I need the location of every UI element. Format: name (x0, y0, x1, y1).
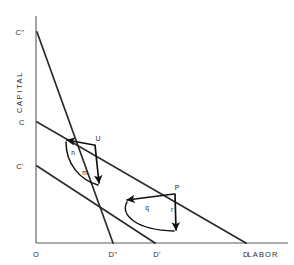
y-tick-c2: C" (16, 28, 25, 37)
vector-label-n: n (71, 149, 75, 156)
y-axis-title: CAPITAL (15, 71, 24, 113)
vector-r (175, 194, 176, 230)
line-c2-d2 (37, 32, 113, 243)
x-tick-d2: D" (109, 250, 118, 259)
x-tick-o: O (33, 250, 39, 259)
vectors-at-u (66, 140, 99, 185)
vector-label-q: q (145, 204, 149, 212)
x-axis-tick-labels: O D" D' D (33, 250, 249, 259)
y-tick-c: C (19, 118, 25, 127)
isocost-lines-group (37, 32, 246, 243)
point-label-p: P (175, 184, 180, 191)
line-c1-d1 (37, 166, 155, 243)
vector-label-m: m (82, 169, 87, 176)
vector-label-r: r (171, 206, 174, 213)
vector-m (95, 145, 99, 183)
isocost-diagram: C" C C' O D" D' D LABOR CAPITAL U P n m … (0, 0, 294, 265)
x-tick-d1: D' (153, 250, 161, 259)
x-axis-title: LABOR (248, 250, 279, 259)
vectors-at-p (125, 194, 176, 231)
point-label-u: U (95, 135, 100, 142)
vector-arc-p (125, 202, 174, 231)
y-tick-c1: C' (16, 162, 24, 171)
axes-group (36, 16, 288, 243)
